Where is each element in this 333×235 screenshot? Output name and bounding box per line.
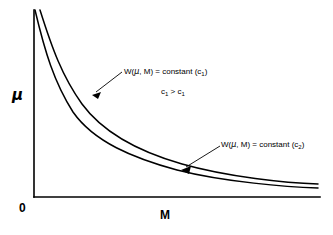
- annotation-c2-subscript: 2: [298, 144, 301, 150]
- annotation-inequality: c1 > c1: [161, 88, 185, 97]
- annotation-curve-c1: W(μ, M) = constant (c1): [124, 68, 207, 77]
- y-axis-label: μ: [12, 88, 23, 103]
- annotation-c1-subscript: 1: [201, 71, 204, 77]
- annotation-c2-prefix: W(: [221, 140, 231, 149]
- origin-label: 0: [19, 202, 26, 214]
- x-axis-label: M: [160, 209, 170, 221]
- annotation-c2-suffix: ): [302, 140, 305, 149]
- annotation-c1-suffix: ): [205, 67, 208, 76]
- curve-constant-c1: [40, 10, 318, 184]
- inequality-lhs-subscript: 1: [165, 91, 168, 97]
- leader-line-c2: [181, 146, 220, 174]
- annotation-c2-mid: , M) = constant (c: [236, 140, 298, 149]
- inequality-rhs-subscript: 1: [181, 91, 184, 97]
- chart-figure: μ M 0 W(μ, M) = constant (c1) c1 > c1 W(…: [0, 0, 333, 235]
- annotation-c1-prefix: W(: [124, 67, 134, 76]
- leader-line-c1: [92, 72, 122, 99]
- chart-plot-area: [0, 0, 333, 235]
- curve-constant-c2: [35, 10, 318, 188]
- annotation-c1-mid: , M) = constant (c: [139, 67, 201, 76]
- annotation-curve-c2: W(μ, M) = constant (c2): [221, 141, 304, 150]
